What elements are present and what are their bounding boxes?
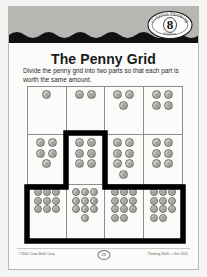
- penny-coin: [111, 197, 119, 205]
- grid-cell-r2c4[interactable]: [144, 135, 183, 185]
- penny-coin: [81, 188, 89, 196]
- penny-coin: [87, 90, 96, 99]
- penny-coin: [75, 159, 84, 168]
- penny-coin: [164, 159, 173, 168]
- penny-coin: [113, 138, 122, 147]
- penny-coin: [159, 197, 167, 205]
- penny-coin: [43, 205, 51, 213]
- penny-coin: [72, 205, 80, 213]
- footer-copyright: ©2001 Crow Math Corp.: [19, 252, 56, 256]
- footer-series-label: Thinking Skills + Unit 1501: [148, 252, 188, 256]
- grid-cell-r2c3[interactable]: [105, 135, 144, 185]
- penny-coin: [90, 197, 98, 205]
- penny-coin: [90, 188, 98, 196]
- penny-coin: [48, 149, 57, 158]
- penny-coin: [152, 90, 161, 99]
- penny-coin: [34, 188, 42, 196]
- penny-coin: [75, 138, 84, 147]
- penny-coin: [87, 138, 96, 147]
- footer-divider: [17, 248, 190, 249]
- grid-cell-r1c2[interactable]: [67, 87, 106, 135]
- penny-cluster: [42, 90, 51, 99]
- penny-cluster: [111, 188, 137, 222]
- penny-coin: [72, 188, 80, 196]
- penny-coin: [152, 149, 161, 158]
- page-footer: ©2001 Crow Math Corp. 23 Thinking Skills…: [9, 250, 198, 262]
- penny-coin: [43, 188, 51, 196]
- grid-cell-r2c1[interactable]: [28, 135, 67, 185]
- penny-coin: [90, 205, 98, 213]
- page-number: 23: [97, 250, 110, 260]
- penny-cluster: [75, 138, 96, 168]
- penny-coin: [152, 159, 161, 168]
- penny-cluster: [152, 90, 173, 110]
- grid-cell-r3c3[interactable]: [105, 185, 144, 242]
- worksheet-page: Creative Thinking Puzzles 8 The Penny Gr…: [8, 6, 199, 270]
- penny-coin: [113, 149, 122, 158]
- penny-grid-container: [27, 86, 183, 241]
- seal-number: 8: [147, 18, 193, 31]
- grid-cell-r1c3[interactable]: [105, 87, 144, 135]
- penny-coin: [42, 90, 51, 99]
- penny-coin: [119, 170, 128, 179]
- penny-coin: [152, 101, 161, 110]
- penny-cluster: [36, 138, 57, 168]
- penny-coin: [120, 205, 128, 213]
- penny-coin: [125, 138, 134, 147]
- penny-coin: [52, 197, 60, 205]
- penny-coin: [129, 197, 137, 205]
- grid-cell-r2c2[interactable]: [67, 135, 106, 185]
- penny-cluster: [150, 188, 176, 222]
- penny-coin: [72, 197, 80, 205]
- grid-cell-r1c4[interactable]: [144, 87, 183, 135]
- penny-coin: [125, 149, 134, 158]
- penny-coin: [164, 101, 173, 110]
- penny-coin: [52, 188, 60, 196]
- penny-coin: [159, 205, 167, 213]
- penny-coin: [164, 90, 173, 99]
- penny-coin: [48, 138, 57, 147]
- penny-coin: [34, 197, 42, 205]
- penny-coin: [113, 159, 122, 168]
- penny-cluster: [72, 188, 98, 222]
- penny-coin: [111, 188, 119, 196]
- penny-coin: [120, 197, 128, 205]
- penny-coin: [159, 188, 167, 196]
- penny-coin: [120, 188, 128, 196]
- penny-coin: [125, 90, 134, 99]
- grid-cell-r3c4[interactable]: [144, 185, 183, 242]
- penny-coin: [150, 188, 158, 196]
- penny-coin: [87, 159, 96, 168]
- penny-coin: [129, 205, 137, 213]
- creative-thinking-seal: Creative Thinking Puzzles 8: [147, 9, 193, 43]
- penny-cluster: [152, 138, 173, 168]
- penny-coin: [43, 197, 51, 205]
- penny-coin: [111, 205, 119, 213]
- penny-coin: [150, 205, 158, 213]
- penny-grid[interactable]: [27, 86, 183, 241]
- penny-coin: [36, 138, 45, 147]
- grid-cell-r1c1[interactable]: [28, 87, 67, 135]
- penny-coin: [36, 149, 45, 158]
- penny-coin: [168, 188, 176, 196]
- penny-coin: [120, 214, 128, 222]
- penny-cluster: [113, 90, 134, 110]
- penny-coin: [42, 159, 51, 168]
- penny-cluster: [34, 188, 60, 213]
- penny-coin: [113, 90, 122, 99]
- penny-coin: [34, 205, 42, 213]
- penny-coin: [164, 138, 173, 147]
- penny-coin: [81, 205, 89, 213]
- penny-coin: [150, 214, 158, 222]
- penny-coin: [81, 214, 89, 222]
- penny-coin: [75, 149, 84, 158]
- penny-coin: [168, 205, 176, 213]
- grid-cell-r3c2[interactable]: [67, 185, 106, 242]
- penny-coin: [150, 197, 158, 205]
- penny-coin: [125, 159, 134, 168]
- page-title: The Penny Grid: [9, 51, 198, 67]
- penny-coin: [111, 214, 119, 222]
- instructions-text: Divide the penny grid into two parts so …: [23, 67, 184, 84]
- grid-cell-r3c1[interactable]: [28, 185, 67, 242]
- penny-coin: [52, 205, 60, 213]
